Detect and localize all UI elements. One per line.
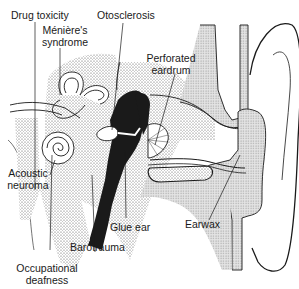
label-occupational-deafness: Occupational deafness	[14, 262, 80, 286]
label-menieres-line1: Ménière's	[40, 24, 90, 36]
label-earwax: Earwax	[185, 218, 220, 230]
label-otosclerosis: Otosclerosis	[97, 9, 155, 21]
label-menieres-line2: syndrome	[40, 36, 90, 48]
label-perforated-line2: eardrum	[145, 64, 197, 76]
label-acoustic-neuroma: Acoustic neuroma	[5, 167, 51, 191]
label-perforated-eardrum: Perforated eardrum	[145, 52, 197, 76]
label-glue-ear: Glue ear	[110, 221, 150, 233]
earwax-plug	[148, 166, 212, 182]
label-drug-toxicity: Drug toxicity	[11, 9, 69, 21]
pinna-inner	[273, 52, 290, 180]
label-acoustic-line1: Acoustic	[5, 167, 51, 179]
label-occupational-line1: Occupational	[14, 262, 80, 274]
label-perforated-line1: Perforated	[145, 52, 197, 64]
label-occupational-line2: deafness	[14, 274, 80, 286]
label-barotrauma: Barotrauma	[70, 241, 125, 253]
label-menieres-syndrome: Ménière's syndrome	[40, 24, 90, 48]
label-acoustic-line2: neuroma	[5, 179, 51, 191]
cochlea	[42, 132, 74, 164]
